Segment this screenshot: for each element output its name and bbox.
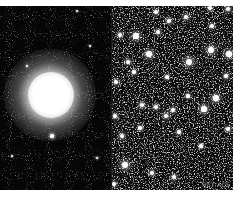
star <box>138 126 141 129</box>
star <box>50 134 53 137</box>
star <box>89 45 91 47</box>
star <box>113 114 117 118</box>
star <box>146 51 152 57</box>
star <box>210 24 214 28</box>
star <box>186 94 189 97</box>
star <box>213 95 218 100</box>
star <box>118 33 122 37</box>
star <box>226 7 230 11</box>
star <box>224 74 228 78</box>
star <box>112 182 116 186</box>
star <box>154 105 158 109</box>
star <box>199 144 202 147</box>
cluster-core <box>28 72 74 118</box>
star <box>76 10 78 12</box>
star <box>132 70 136 74</box>
star <box>208 6 212 10</box>
star <box>167 19 171 23</box>
star <box>133 33 138 38</box>
star <box>154 10 158 14</box>
star <box>177 130 181 134</box>
astronomy-image: HST ACS <box>0 6 233 190</box>
star <box>201 106 206 111</box>
watermark-label: HST ACS <box>202 181 230 188</box>
star <box>150 171 154 175</box>
cluster-overview-panel <box>0 6 112 190</box>
star <box>226 127 230 131</box>
resolved-star-field-panel: HST ACS <box>112 6 233 190</box>
star <box>171 108 175 112</box>
star <box>165 75 169 79</box>
star <box>226 51 231 56</box>
star <box>11 155 13 157</box>
